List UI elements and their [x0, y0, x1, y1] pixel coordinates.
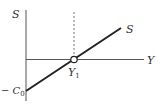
intercept-label-main: − C — [1, 85, 21, 96]
intersection-label-subscript: 1 — [75, 72, 79, 80]
intersection-label: Y1 — [68, 66, 80, 80]
line-label: S — [126, 23, 134, 36]
intercept-label-subscript: 0 — [20, 90, 24, 98]
x-axis-label: Y — [147, 54, 156, 67]
saving-function-diagram: S S Y Y1 − C0 — [0, 0, 167, 107]
intersection-point — [71, 56, 77, 62]
intercept-label: − C0 — [1, 85, 25, 98]
y-axis-label: S — [12, 8, 20, 21]
